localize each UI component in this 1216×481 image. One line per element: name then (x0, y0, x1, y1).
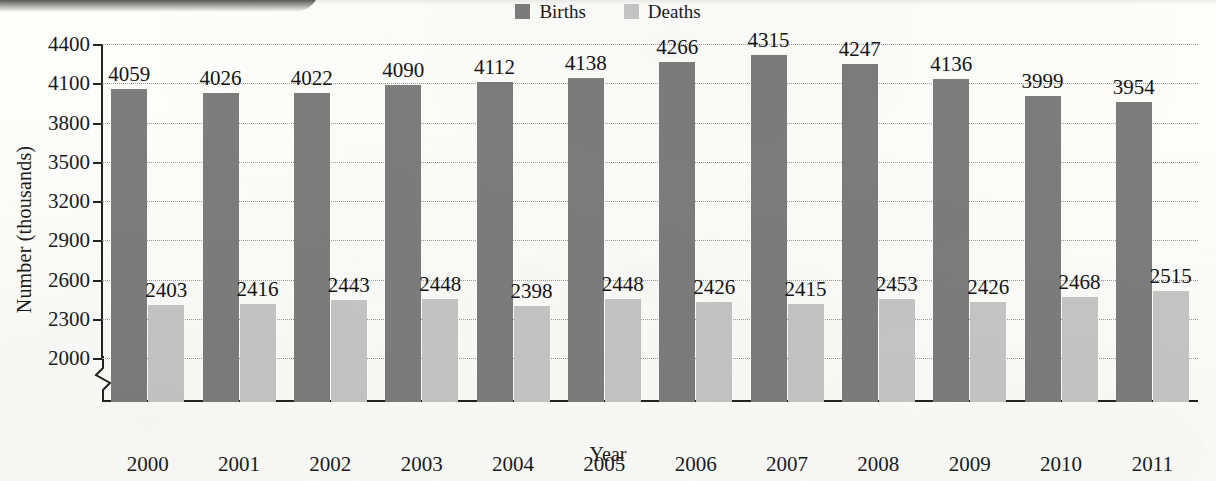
bar-deaths (1153, 291, 1189, 402)
y-axis-tick-label: 4100 (4, 71, 90, 96)
bar-value-label: 2403 (136, 278, 196, 303)
plot-area: 2000230026002900320035003800410044004059… (102, 44, 1198, 402)
bar-deaths (970, 302, 1006, 402)
legend-item-deaths: Deaths (624, 2, 701, 21)
bar-value-label: 2398 (502, 279, 562, 304)
y-axis-tick-label: 3500 (4, 150, 90, 175)
y-axis-tick (93, 123, 102, 125)
bar-value-label: 2468 (1050, 270, 1110, 295)
bar-group: 40902448 (385, 44, 458, 402)
y-axis-tick-label: 2000 (4, 346, 90, 371)
bar-births (294, 93, 330, 402)
bar-births (751, 55, 787, 402)
bar-value-label: 3999 (1013, 69, 1073, 94)
bar-births (933, 79, 969, 402)
y-axis-tick (93, 162, 102, 164)
bar-births (477, 82, 513, 402)
bar-group: 39992468 (1025, 44, 1098, 402)
y-axis-tick-label: 2900 (4, 228, 90, 253)
bar-value-label: 4026 (191, 66, 251, 91)
bar-value-label: 4022 (282, 66, 342, 91)
bar-group: 40222443 (294, 44, 367, 402)
bar-value-label: 2515 (1141, 264, 1201, 289)
x-axis-tick-label: 2008 (833, 452, 924, 477)
bar-value-label: 2416 (228, 277, 288, 302)
bar-value-label: 2453 (867, 272, 927, 297)
bar-deaths (422, 299, 458, 402)
chart-legend: Births Deaths (0, 2, 1216, 21)
bar-value-label: 4112 (465, 55, 525, 80)
bar-births (1025, 96, 1061, 402)
bar-births (385, 85, 421, 402)
bar-births (203, 93, 239, 402)
y-axis-tick-label: 2600 (4, 268, 90, 293)
bar-births (568, 78, 604, 402)
bar-deaths (605, 299, 641, 402)
x-axis-tick-label: 2001 (193, 452, 284, 477)
bar-group: 41362426 (933, 44, 1006, 402)
bar-deaths (696, 302, 732, 402)
bar-value-label: 2415 (776, 277, 836, 302)
x-axis-tick-label: 2004 (467, 452, 558, 477)
x-axis-tick-label: 2000 (102, 452, 193, 477)
bar-deaths (148, 305, 184, 402)
y-axis-tick (93, 280, 102, 282)
bar-group: 40262416 (203, 44, 276, 402)
x-axis-tick-label: 2002 (285, 452, 376, 477)
legend-item-births: Births (515, 2, 585, 21)
bar-value-label: 2443 (319, 273, 379, 298)
legend-swatch-births-icon (515, 4, 530, 19)
bar-group: 42662426 (659, 44, 732, 402)
x-axis-tick-label: 2010 (1015, 452, 1106, 477)
bar-group: 41122398 (477, 44, 550, 402)
bar-value-label: 4138 (556, 51, 616, 76)
y-axis-tick (93, 44, 102, 46)
y-axis-tick-label: 3200 (4, 189, 90, 214)
bar-group: 39542515 (1116, 44, 1189, 402)
x-axis-tick-label: 2006 (650, 452, 741, 477)
legend-swatch-deaths-icon (624, 4, 639, 19)
bar-births (111, 89, 147, 402)
y-axis-tick-label: 2300 (4, 307, 90, 332)
x-axis-tick-label: 2009 (924, 452, 1015, 477)
bar-value-label: 4315 (739, 28, 799, 53)
legend-label-births: Births (539, 2, 585, 21)
bar-births (659, 62, 695, 402)
bar-value-label: 4059 (99, 62, 159, 87)
bar-value-label: 2448 (593, 272, 653, 297)
bar-group: 41382448 (568, 44, 641, 402)
legend-label-deaths: Deaths (648, 2, 701, 21)
y-axis-tick (93, 201, 102, 203)
bar-deaths (240, 304, 276, 402)
bar-deaths (514, 306, 550, 402)
bar-value-label: 2448 (410, 272, 470, 297)
x-axis-tick-label: 2007 (741, 452, 832, 477)
y-axis-tick (93, 319, 102, 321)
bar-births (1116, 102, 1152, 402)
y-axis-tick (93, 240, 102, 242)
x-axis-tick-label: 2011 (1107, 452, 1198, 477)
bar-group: 42472453 (842, 44, 915, 402)
y-axis-tick (93, 358, 102, 360)
bar-deaths (788, 304, 824, 402)
bar-value-label: 4247 (830, 37, 890, 62)
bar-group: 40592403 (111, 44, 184, 402)
bar-value-label: 2426 (684, 275, 744, 300)
x-axis-tick-label: 2003 (376, 452, 467, 477)
bar-value-label: 2426 (958, 275, 1018, 300)
bar-births (842, 64, 878, 402)
bar-deaths (1062, 297, 1098, 402)
bar-group: 43152415 (751, 44, 824, 402)
bar-value-label: 4090 (373, 58, 433, 83)
bar-deaths (331, 300, 367, 402)
bar-chart: Births Deaths Number (thousands) Year 20… (0, 0, 1216, 481)
bar-value-label: 4136 (921, 52, 981, 77)
bar-deaths (879, 299, 915, 402)
y-axis-tick-label: 4400 (4, 32, 90, 57)
y-axis-tick-label: 3800 (4, 111, 90, 136)
bar-value-label: 3954 (1104, 75, 1164, 100)
bar-value-label: 4266 (647, 35, 707, 60)
x-axis-tick-label: 2005 (559, 452, 650, 477)
